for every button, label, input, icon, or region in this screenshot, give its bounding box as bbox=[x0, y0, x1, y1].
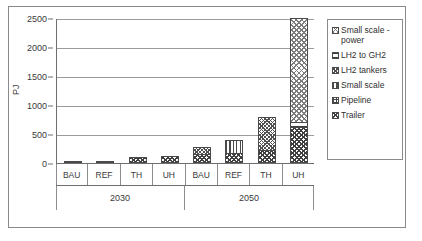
y-tick-label: 0 bbox=[42, 159, 47, 169]
bar-segment[interactable] bbox=[290, 127, 308, 163]
bar-segment[interactable] bbox=[96, 161, 114, 163]
category-label: BAU bbox=[56, 164, 88, 185]
category-label: REF bbox=[88, 164, 120, 185]
category-label: REF bbox=[218, 164, 250, 185]
y-tick-label: 1000 bbox=[27, 101, 47, 111]
stacked-bar[interactable] bbox=[64, 161, 82, 163]
y-tick-mark bbox=[48, 164, 53, 165]
y-tick-label: 2500 bbox=[27, 14, 47, 24]
plot-area bbox=[56, 19, 314, 164]
bar-segment[interactable] bbox=[64, 161, 82, 163]
bar-segment[interactable] bbox=[129, 157, 147, 163]
legend-swatch bbox=[332, 112, 339, 119]
category-label: TH bbox=[121, 164, 153, 185]
bar-segment[interactable] bbox=[225, 140, 243, 153]
bar-segment[interactable] bbox=[193, 147, 211, 155]
stacked-bar[interactable] bbox=[96, 161, 114, 163]
chart-legend: Small scale - powerLH2 to GH2LH2 tankers… bbox=[327, 19, 403, 160]
legend-item[interactable]: Trailer bbox=[332, 110, 399, 120]
legend-label: Small scale - power bbox=[341, 25, 390, 45]
stacked-bar[interactable] bbox=[290, 18, 308, 163]
y-tick-mark bbox=[48, 19, 53, 20]
legend-item[interactable]: Small scale - power bbox=[332, 25, 399, 45]
group-axis: 20302050 bbox=[56, 186, 314, 210]
legend-label: Pipeline bbox=[341, 95, 371, 105]
legend-swatch bbox=[332, 82, 339, 89]
legend-swatch bbox=[332, 52, 339, 59]
y-tick-mark bbox=[48, 48, 53, 49]
legend-label: LH2 to GH2 bbox=[341, 50, 386, 60]
bar-slot bbox=[57, 19, 89, 163]
bar-segment[interactable] bbox=[258, 117, 276, 150]
legend-item[interactable]: Pipeline bbox=[332, 95, 399, 105]
bar-series-container bbox=[57, 19, 314, 163]
y-tick-mark bbox=[48, 77, 53, 78]
chart-figure: 05001000150020002500 PJ BAUREFTHUHBAUREF… bbox=[8, 6, 406, 228]
y-tick-label: 500 bbox=[32, 130, 47, 140]
stacked-bar[interactable] bbox=[225, 140, 243, 163]
legend-item[interactable]: LH2 to GH2 bbox=[332, 50, 399, 60]
group-label: 2030 bbox=[56, 186, 185, 210]
bar-segment[interactable] bbox=[258, 150, 276, 163]
y-axis-title: PJ bbox=[11, 84, 21, 95]
bar-segment[interactable] bbox=[161, 156, 179, 163]
bar-slot bbox=[154, 19, 186, 163]
stacked-bar[interactable] bbox=[258, 117, 276, 163]
bar-slot bbox=[186, 19, 218, 163]
legend-label: Trailer bbox=[341, 110, 365, 120]
bar-slot bbox=[122, 19, 154, 163]
bar-segment[interactable] bbox=[193, 154, 211, 163]
bar-slot bbox=[251, 19, 283, 163]
legend-swatch bbox=[332, 97, 339, 104]
bar-segment[interactable] bbox=[290, 18, 308, 122]
y-tick-label: 2000 bbox=[27, 43, 47, 53]
category-label: UH bbox=[283, 164, 314, 185]
stacked-bar[interactable] bbox=[129, 157, 147, 163]
y-tick-mark bbox=[48, 106, 53, 107]
legend-label: Small scale bbox=[341, 80, 384, 90]
category-label: TH bbox=[250, 164, 282, 185]
group-label: 2050 bbox=[185, 186, 314, 210]
stacked-bar[interactable] bbox=[193, 147, 211, 163]
bar-segment[interactable] bbox=[225, 153, 243, 163]
bar-slot bbox=[283, 19, 315, 163]
legend-label: LH2 tankers bbox=[341, 65, 387, 75]
category-label: UH bbox=[153, 164, 185, 185]
legend-item[interactable]: LH2 tankers bbox=[332, 65, 399, 75]
legend-swatch bbox=[332, 27, 339, 34]
y-tick-label: 1500 bbox=[27, 72, 47, 82]
legend-item[interactable]: Small scale bbox=[332, 80, 399, 90]
category-label: BAU bbox=[186, 164, 218, 185]
legend-swatch bbox=[332, 67, 339, 74]
stacked-bar[interactable] bbox=[161, 156, 179, 163]
bar-slot bbox=[218, 19, 250, 163]
category-axis: BAUREFTHUHBAUREFTHUH bbox=[56, 164, 314, 186]
bar-slot bbox=[89, 19, 121, 163]
y-tick-mark bbox=[48, 135, 53, 136]
